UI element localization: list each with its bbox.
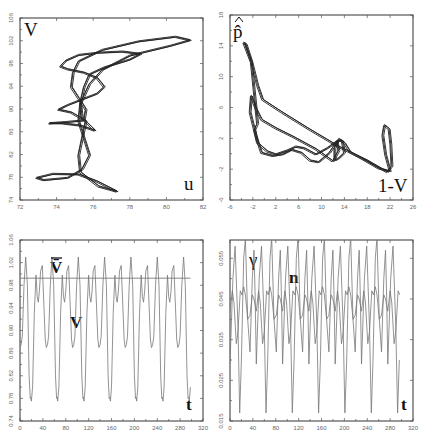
y-tick-label: 0.78 (8, 392, 14, 404)
y-tick-label: 0.98 (8, 279, 14, 291)
x-tick-label: 200 (129, 425, 140, 431)
x-tick-label: 200 (339, 425, 350, 431)
x-tick-label: 240 (362, 425, 373, 431)
y-tick-label: 0.015 (218, 413, 224, 429)
x-tick-label: 280 (385, 425, 396, 431)
y-tick-label: 78 (8, 173, 14, 180)
y-tick-label: 0.94 (8, 301, 14, 313)
label-n: n (289, 268, 299, 287)
y-tick-label: 74 (8, 196, 14, 203)
trajectory-strand-2 (36, 37, 190, 192)
x-tick-label: 160 (316, 425, 327, 431)
x-tick-label: 240 (152, 425, 163, 431)
y-tick-label: 18 (218, 11, 224, 18)
trajectory-strand-0 (37, 36, 191, 191)
y-tick-label: 1.06 (8, 234, 14, 246)
panel-V-time-series: 040801201602002402803200.740.780.820.860… (8, 234, 209, 431)
x-tick-label: 2 (274, 204, 278, 210)
x-tick-label: 0 (228, 425, 232, 431)
y-tick-label: 90 (8, 105, 14, 112)
x-tick-label: 280 (175, 425, 186, 431)
y-tick-label: 98 (8, 60, 14, 67)
y-tick-label: -2 (218, 166, 224, 172)
x-tick-label: 82 (200, 204, 207, 210)
panel-u-vs-V: 72747678808274788286909498102106 V u (8, 12, 207, 210)
x-tick-label: 120 (84, 425, 95, 431)
y-tick-label: 10 (218, 73, 224, 80)
x-tick-label: 14 (341, 204, 348, 210)
y-tick-label: 0.82 (8, 369, 14, 381)
xlabel-u: u (184, 173, 194, 194)
x-tick-label: 78 (126, 204, 133, 210)
y-tick-label: 0.025 (218, 372, 224, 388)
x-tick-label: 0 (18, 425, 22, 431)
y-tick-label: 2 (218, 136, 224, 140)
y-tick-label: 102 (8, 35, 14, 46)
figure-canvas: 72747678808274788286909498102106 V u -6-… (0, 0, 427, 437)
x-tick-label: 320 (408, 425, 419, 431)
y-tick-label: 94 (8, 82, 14, 89)
panel-gamma-n-time-series: 040801201602002402803200.0150.0250.0350.… (218, 238, 419, 431)
y-tick-label: 0.86 (8, 347, 14, 359)
y-tick-label: 82 (8, 151, 14, 158)
xlabel-1-minus-V: 1-V (378, 175, 408, 196)
y-tick-label: -6 (218, 197, 224, 203)
x-tick-label: 76 (90, 204, 97, 210)
x-tick-label: 40 (40, 425, 47, 431)
y-tick-label: 6 (218, 105, 224, 109)
y-tick-label: 86 (8, 128, 14, 135)
y-tick-label: 0.74 (8, 415, 14, 427)
trajectory-strand-1 (38, 37, 192, 192)
y-tick-label: 14 (218, 42, 224, 49)
ylabel-V: V (24, 19, 38, 40)
x-tick-label: 22 (387, 204, 394, 210)
plot-frame (20, 240, 203, 421)
x-tick-label: 160 (106, 425, 117, 431)
x-tick-label: 26 (410, 204, 417, 210)
y-tick-label: 1.02 (8, 256, 14, 268)
y-tick-label: 0.90 (8, 324, 14, 336)
x-tick-label: 18 (364, 204, 371, 210)
xlabel-t: t (401, 395, 407, 414)
x-tick-label: -6 (227, 204, 233, 210)
x-tick-label: -2 (250, 204, 256, 210)
x-tick-label: 10 (318, 204, 325, 210)
y-tick-label: 0.055 (218, 250, 224, 266)
axes-frame: 040801201602002402803200.740.780.820.860… (8, 234, 209, 431)
x-tick-label: 6 (297, 204, 301, 210)
panel-1mV-vs-phat: -6-2261014182226-6-226101418 p̂ 1-V (218, 11, 417, 210)
x-tick-label: 80 (272, 425, 279, 431)
x-tick-label: 74 (53, 204, 60, 210)
x-tick-label: 80 (62, 425, 69, 431)
y-tick-label: 106 (8, 12, 14, 23)
x-tick-label: 40 (250, 425, 257, 431)
x-tick-label: 72 (17, 204, 24, 210)
x-tick-label: 120 (294, 425, 305, 431)
ylabel-p-hat: p̂ (233, 21, 243, 42)
y-tick-label: 0.035 (218, 331, 224, 347)
x-tick-label: 320 (198, 425, 209, 431)
series-primary (20, 257, 190, 401)
axes-frame: 72747678808274788286909498102106 (8, 12, 207, 210)
x-tick-label: 80 (163, 204, 170, 210)
y-tick-label: 0.045 (218, 291, 224, 307)
